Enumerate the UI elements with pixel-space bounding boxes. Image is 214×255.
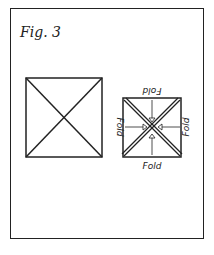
- right-square: [122, 98, 182, 157]
- fold-diagram: Fold Fold Fold Fold: [0, 0, 214, 255]
- left-square: [26, 78, 102, 157]
- fold-label-right: Fold: [181, 117, 191, 136]
- fold-label-top: Fold: [142, 86, 161, 96]
- fold-label-left: Fold: [115, 118, 125, 137]
- fold-label-bottom: Fold: [143, 161, 162, 171]
